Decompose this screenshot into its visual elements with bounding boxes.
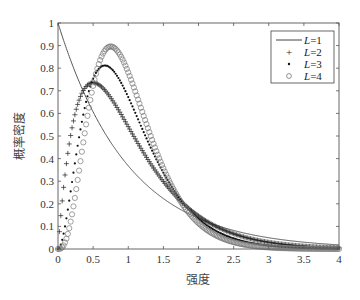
chart: 00.511.522.533.54 00.10.20.30.40.50.60.7… xyxy=(0,0,360,300)
x-tick-label: 0.5 xyxy=(86,253,100,265)
y-tick-label: 0.1 xyxy=(40,220,54,232)
x-tick-label: 0 xyxy=(55,253,61,265)
y-tick-label: 0.5 xyxy=(40,130,54,142)
legend-label-prefix: L xyxy=(303,70,310,82)
y-tick-label: 0.2 xyxy=(40,198,54,210)
y-tick-label: 0.4 xyxy=(40,153,54,165)
legend-dot-icon xyxy=(288,63,290,65)
svg-text:L=1: L=1 xyxy=(303,34,322,46)
x-tick-label: 2.5 xyxy=(227,253,241,265)
y-tick-label: 0.3 xyxy=(40,175,54,187)
y-axis-label: 概率密度 xyxy=(12,112,27,160)
y-tick-label: 0.8 xyxy=(40,62,54,74)
legend-plus-icon: + xyxy=(286,46,292,58)
x-tick-label: 1 xyxy=(126,253,132,265)
x-tick-label: 1.5 xyxy=(157,253,171,265)
svg-text:L=4: L=4 xyxy=(303,70,322,82)
x-tick-label: 2 xyxy=(196,253,202,265)
legend: L=1 + L=2 L=3 L=4 xyxy=(271,31,334,83)
x-axis-label: 强度 xyxy=(186,272,210,287)
legend-box xyxy=(271,31,334,83)
legend-label-prefix: L xyxy=(303,58,310,70)
legend-label-suffix: =4 xyxy=(310,70,322,82)
y-tick-label: 0.7 xyxy=(40,85,54,97)
legend-label-prefix: L xyxy=(303,46,310,58)
x-tick-label: 3.5 xyxy=(297,253,311,265)
svg-text:L=2: L=2 xyxy=(303,46,322,58)
legend-label-suffix: =1 xyxy=(310,34,322,46)
x-tick-label: 4 xyxy=(336,253,342,265)
y-tick-label: 1 xyxy=(49,17,55,29)
y-tick-label: 0.9 xyxy=(40,40,54,52)
legend-label-suffix: =3 xyxy=(310,58,322,70)
legend-item-l2: + L=2 xyxy=(286,46,322,58)
x-tick-label: 3 xyxy=(266,253,272,265)
y-tick-label: 0.6 xyxy=(40,107,54,119)
svg-text:L=3: L=3 xyxy=(303,58,322,70)
y-tick-label: 0 xyxy=(49,243,55,255)
legend-label-prefix: L xyxy=(303,34,310,46)
legend-label-suffix: =2 xyxy=(310,46,322,58)
